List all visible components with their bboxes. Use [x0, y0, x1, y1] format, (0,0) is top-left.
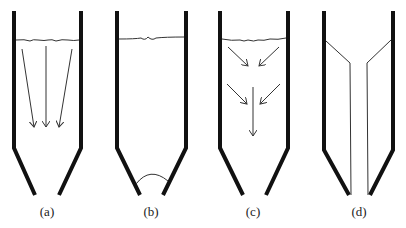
- flow-arrow-icon: [260, 84, 280, 104]
- tank-wall-right: [370, 11, 393, 195]
- panel-label-c: (c): [246, 204, 260, 219]
- panel-d: (d): [324, 11, 393, 219]
- baffle-plate-right: [367, 40, 391, 195]
- tank-wall-left: [220, 11, 243, 195]
- bottom-arc: [136, 174, 168, 184]
- panel-label-d: (d): [351, 204, 366, 219]
- panel-label-b: (b): [143, 204, 158, 219]
- liquid-surface: [119, 37, 184, 39]
- flow-arrow-icon: [227, 84, 247, 104]
- liquid-surface: [16, 40, 79, 41]
- flow-arrow-icon: [259, 47, 279, 66]
- tank-wall-right: [59, 11, 81, 195]
- baffle-plate-left: [326, 41, 351, 195]
- liquid-surface: [222, 38, 286, 41]
- tank-wall-right: [163, 11, 186, 195]
- panel-a: (a): [14, 11, 81, 219]
- panel-b: (b): [117, 11, 186, 219]
- flow-arrow-icon: [228, 47, 248, 66]
- panel-label-a: (a): [40, 204, 54, 219]
- tank-wall-left: [14, 11, 35, 195]
- tank-wall-left: [324, 11, 349, 195]
- panel-c: (c): [220, 11, 288, 219]
- diagram-canvas: (a) (b) (c) (d): [0, 0, 406, 228]
- flow-arrow-icon: [59, 49, 72, 127]
- flow-arrow-icon: [22, 49, 34, 127]
